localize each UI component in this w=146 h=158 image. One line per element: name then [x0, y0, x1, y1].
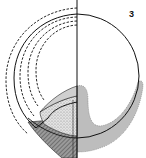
gray-crescent-layer [77, 81, 143, 152]
diagram [0, 0, 146, 158]
panel-label: 3 [129, 9, 134, 19]
